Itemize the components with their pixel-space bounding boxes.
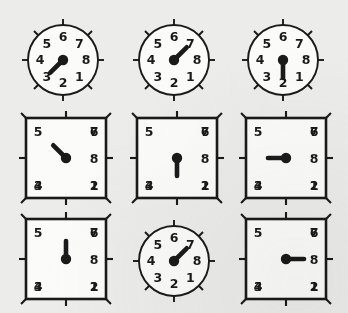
dial-7-face-square: 67812345 — [16, 211, 132, 313]
dial-8-number-3: 3 — [153, 270, 162, 285]
dial-9-tick-7 — [326, 214, 331, 219]
dial-1-tick-5 — [34, 31, 38, 35]
dial-5-number-2: 2 — [201, 178, 210, 193]
dial-1-number-8: 8 — [82, 52, 91, 67]
dial-9-face-square: 67812345 — [236, 211, 348, 313]
dial-1-tick-1 — [88, 85, 92, 89]
dial-3-tick-5 — [254, 31, 258, 35]
dial-3-number-3: 3 — [262, 69, 271, 84]
dial-cell-r1c3: 67812345 — [236, 8, 348, 112]
dial-7-tick-7 — [106, 214, 111, 219]
dial-5-tick-7 — [217, 113, 222, 118]
dial-5-number-8: 8 — [201, 151, 210, 166]
dial-1-tick-3 — [34, 85, 38, 89]
dial-4-tick-7 — [106, 113, 111, 118]
dial-4-tick-1 — [106, 198, 111, 203]
dial-2-number-6: 6 — [170, 29, 179, 44]
dial-2-number-4: 4 — [147, 52, 156, 67]
dial-5-number-4: 4 — [145, 178, 154, 193]
dial-7-tick-3 — [21, 299, 26, 304]
dial-cell-r3c2: 67812345 — [127, 209, 243, 313]
dial-3-number-6: 6 — [279, 29, 288, 44]
dial-3-number-4: 4 — [256, 52, 265, 67]
dial-4-number-7: 7 — [90, 124, 99, 139]
dial-8-number-5: 5 — [153, 237, 162, 252]
dial-7-number-8: 8 — [90, 252, 99, 267]
dial-1-number-1: 1 — [75, 69, 84, 84]
dial-5-tick-5 — [132, 113, 137, 118]
dial-2-tick-7 — [199, 31, 203, 35]
dial-2-number-2: 2 — [170, 75, 179, 90]
dial-7-tick-1 — [106, 299, 111, 304]
dial-2-number-5: 5 — [153, 36, 162, 51]
dial-3-number-7: 7 — [295, 36, 304, 51]
dial-8-number-2: 2 — [170, 276, 179, 291]
dial-1-number-4: 4 — [36, 52, 45, 67]
dial-6-number-5: 5 — [254, 124, 263, 139]
dial-array: 6781234567812345678123456781234567812345… — [0, 0, 348, 313]
dial-cell-r1c2: 67812345 — [127, 8, 243, 112]
dial-7-number-5: 5 — [34, 225, 43, 240]
dial-8-tick-7 — [199, 232, 203, 236]
dial-6-number-7: 7 — [310, 124, 319, 139]
dial-7-number-7: 7 — [90, 225, 99, 240]
dial-2-tick-5 — [145, 31, 149, 35]
dial-1-number-5: 5 — [42, 36, 51, 51]
dial-6-tick-7 — [326, 113, 331, 118]
dial-5-number-5: 5 — [145, 124, 154, 139]
dial-1-number-2: 2 — [59, 75, 68, 90]
dial-8-tick-5 — [145, 232, 149, 236]
dial-2-number-8: 8 — [193, 52, 202, 67]
dial-3-number-1: 1 — [295, 69, 304, 84]
dial-3-tick-3 — [254, 85, 258, 89]
dial-7-tick-5 — [21, 214, 26, 219]
dial-1-tick-7 — [88, 31, 92, 35]
dial-9-number-8: 8 — [310, 252, 319, 267]
dial-2-number-1: 1 — [186, 69, 195, 84]
dial-cell-r2c1: 67812345 — [16, 110, 132, 214]
dial-7-number-4: 4 — [34, 279, 43, 294]
dial-4-tick-5 — [21, 113, 26, 118]
dial-4-number-4: 4 — [34, 178, 43, 193]
dial-4-number-2: 2 — [90, 178, 99, 193]
dial-9-number-5: 5 — [254, 225, 263, 240]
dial-6-face-square: 67812345 — [236, 110, 348, 214]
dial-8-number-8: 8 — [193, 253, 202, 268]
dial-8-tick-1 — [199, 286, 203, 290]
dial-8-number-1: 1 — [186, 270, 195, 285]
dial-cell-r3c1: 67812345 — [16, 211, 132, 313]
dial-6-number-8: 8 — [310, 151, 319, 166]
dial-9-tick-5 — [241, 214, 246, 219]
dial-9-number-7: 7 — [310, 225, 319, 240]
dial-1-number-6: 6 — [59, 29, 68, 44]
dial-9-tick-3 — [241, 299, 246, 304]
dial-6-number-4: 4 — [254, 178, 263, 193]
dial-4-number-8: 8 — [90, 151, 99, 166]
dial-4-face-square: 67812345 — [16, 110, 132, 214]
dial-8-number-6: 6 — [170, 230, 179, 245]
dial-3-face-circle: 67812345 — [236, 8, 348, 112]
dial-5-face-square: 67812345 — [127, 110, 243, 214]
dial-3-tick-7 — [308, 31, 312, 35]
dial-cell-r2c2: 67812345 — [127, 110, 243, 214]
dial-9-tick-1 — [326, 299, 331, 304]
dial-2-face-circle: 67812345 — [127, 8, 243, 112]
dial-cell-r1c1: 67812345 — [16, 8, 132, 112]
dial-2-number-3: 3 — [153, 69, 162, 84]
dial-9-number-2: 2 — [310, 279, 319, 294]
dial-5-tick-1 — [217, 198, 222, 203]
dial-6-tick-1 — [326, 198, 331, 203]
dial-6-tick-3 — [241, 198, 246, 203]
dial-5-number-7: 7 — [201, 124, 210, 139]
dial-7-number-2: 2 — [90, 279, 99, 294]
dial-3-number-5: 5 — [262, 36, 271, 51]
dial-1-number-7: 7 — [75, 36, 84, 51]
dial-8-number-4: 4 — [147, 253, 156, 268]
dial-4-tick-3 — [21, 198, 26, 203]
dial-1-face-circle: 67812345 — [16, 8, 132, 112]
dial-cell-r3c3: 67812345 — [236, 211, 348, 313]
dial-4-number-5: 5 — [34, 124, 43, 139]
dial-2-tick-3 — [145, 85, 149, 89]
dial-6-number-2: 2 — [310, 178, 319, 193]
dial-5-tick-3 — [132, 198, 137, 203]
